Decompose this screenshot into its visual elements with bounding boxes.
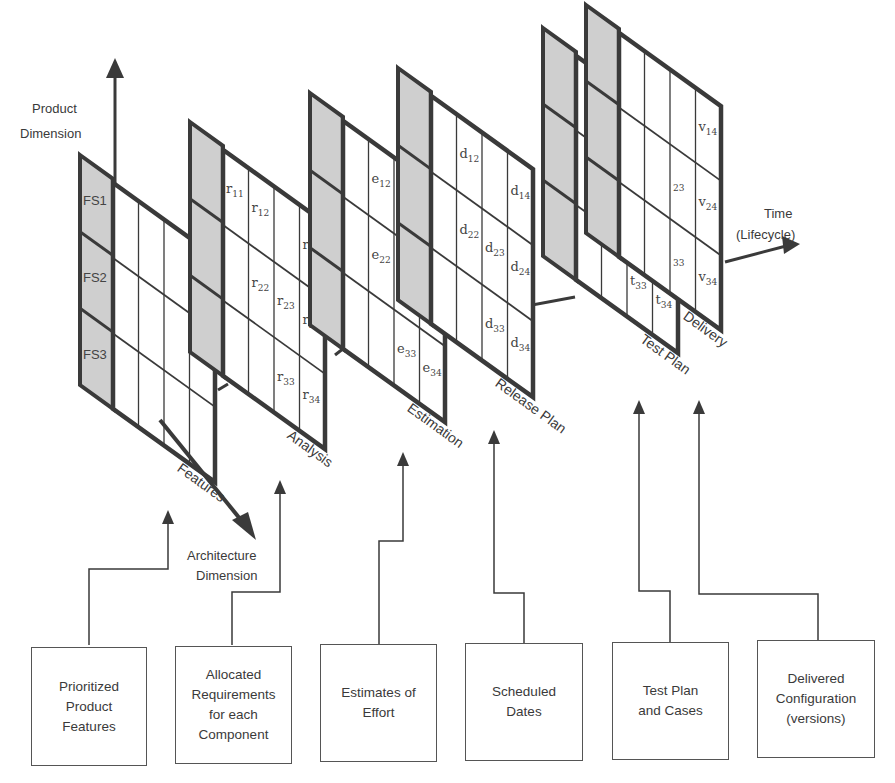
arrowhead-release-plan — [488, 430, 500, 444]
header-strip — [543, 28, 576, 280]
cell-label: 23 — [673, 183, 685, 193]
box-text: Estimates of Effort — [341, 683, 415, 723]
diagram-canvas: Product Dimension Time (Lifecycle) FS1FS… — [0, 0, 895, 783]
cell-label: 33 — [673, 258, 685, 268]
box-delivered-configuration: Delivered Configuration (versions) — [757, 640, 875, 758]
box-estimates-of-effort: Estimates of Effort — [320, 644, 437, 762]
header-strip — [310, 93, 343, 349]
box-prioritized-product-features: Prioritized Product Features — [31, 647, 147, 766]
box-text: Delivered Configuration (versions) — [776, 669, 856, 729]
box-test-plan-and-cases: Test Plan and Cases — [612, 642, 729, 760]
product-dimension-label-1: Product — [32, 101, 77, 116]
time-label-1: Time — [764, 206, 792, 221]
box-text: Prioritized Product Features — [59, 677, 119, 737]
arrowhead-analysis — [274, 480, 286, 494]
box-text: Allocated Requirements for each Componen… — [191, 665, 275, 745]
box-scheduled-dates: Scheduled Dates — [465, 643, 583, 761]
box-text: Scheduled Dates — [492, 682, 556, 722]
product-dimension-label-2: Dimension — [20, 126, 81, 141]
header-strip — [398, 68, 431, 324]
header-strip — [586, 5, 619, 257]
panels-group: FS1FS2FS3Featuresr11r12r14r22r23r24r33r3… — [80, 5, 731, 505]
box-text: Test Plan and Cases — [638, 681, 703, 721]
box-allocated-requirements: Allocated Requirements for each Componen… — [175, 646, 292, 764]
architecture-dimension-label-2: Dimension — [196, 568, 257, 583]
time-label-2: (Lifecycle) — [736, 227, 795, 242]
header-strip — [190, 122, 223, 376]
arrowhead-features — [162, 510, 174, 524]
arrowhead-estimation — [397, 452, 409, 466]
arrowhead-delivery — [693, 400, 705, 414]
row-label: FS3 — [83, 347, 107, 362]
architecture-dimension-label-1: Architecture — [187, 548, 256, 563]
arrowhead-test-plan — [633, 400, 645, 414]
row-label: FS1 — [83, 193, 107, 208]
row-label: FS2 — [83, 270, 107, 285]
